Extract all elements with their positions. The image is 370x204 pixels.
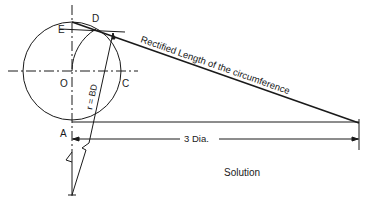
label-d: D [92,13,99,24]
caption: Solution [224,167,260,178]
label-o: O [60,78,68,89]
rectified-circumference-diagram: D E O C A r = BD Rectified Length of the… [0,0,370,204]
dimension-arrow-left [73,137,79,141]
break-line-left [66,152,72,162]
label-e: E [58,24,65,35]
label-c: C [122,78,129,89]
dimension-arrow-right [352,137,358,141]
dimension-label: 3 Dia. [184,133,209,144]
construction-arc-oc [72,29,96,71]
label-a: A [60,128,67,139]
rectified-length-label: Rectified Length of the circumference [139,34,291,97]
break-line [72,143,89,195]
radius-arrow [112,33,115,39]
rectified-length-line [72,22,359,123]
